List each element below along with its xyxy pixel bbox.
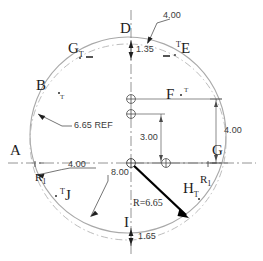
radius-label-r1-right: R1: [200, 174, 211, 188]
datum-label-g-top: GT: [68, 41, 84, 59]
dimension-right-4: 4.00: [224, 126, 242, 135]
datum-label-f: F: [166, 87, 174, 102]
dimension-center-3: 3.00: [140, 133, 158, 142]
leader-800: [91, 175, 108, 216]
dimension-665-ref: 6.65 REF: [74, 121, 113, 130]
reference-circle-dashed: [30, 44, 226, 240]
arrowhead-center-3-top: [159, 116, 163, 122]
part-outline-solid: [30, 37, 226, 233]
arrowhead-top-135-down: [129, 52, 134, 59]
radius-label-r1-left: R1: [35, 172, 46, 186]
dimension-top-leader-4: 4.00: [163, 11, 181, 20]
dimension-radius-665: R=6.65: [133, 198, 163, 208]
datum-label-h: HT: [183, 181, 199, 199]
datum-label-e: TE: [176, 41, 190, 56]
target-mark-f-label: T: [184, 87, 188, 94]
arrowhead-800: [90, 211, 98, 217]
datum-label-b: B: [36, 78, 46, 93]
dash-marks-top: [86, 56, 170, 57]
dimension-bottom-165: 1.65: [138, 232, 156, 241]
datum-target-symbol-right: [162, 159, 171, 168]
datum-label-a: A: [10, 143, 21, 158]
datum-label-g-right: G: [212, 143, 223, 158]
dimension-top-135: 1.35: [136, 45, 154, 54]
datum-label-j: TJ: [60, 188, 71, 203]
dimension-left-4: 4.00: [68, 160, 86, 169]
target-mark-b-label: T: [60, 94, 64, 101]
dimension-overall-8: 8.00: [111, 168, 129, 177]
target-point-dots: [55, 92, 200, 200]
dot-marks-top: [79, 54, 176, 59]
arrowhead-right-4-top: [214, 101, 218, 107]
arrowhead-665-ref: [38, 114, 45, 120]
datum-target-symbol-upper: [127, 95, 136, 104]
datum-target-symbol-middle: [127, 110, 136, 119]
datum-label-d: D: [120, 21, 131, 36]
arrowhead-bottom-165-down: [129, 238, 134, 245]
datum-label-i: I: [124, 215, 129, 230]
engineering-drawing-canvas: D GT TE B F A G HT TJ I R1 R1 T T 4.00 1: [0, 0, 263, 261]
